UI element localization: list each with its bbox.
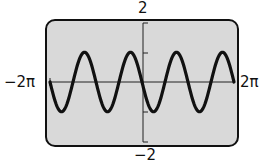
y-max-label: 2 (138, 1, 148, 16)
x-max-label: 2π (240, 75, 259, 90)
graphing-screen (0, 0, 266, 164)
x-min-label: −2π (4, 75, 35, 90)
y-min-label: −2 (134, 148, 156, 163)
